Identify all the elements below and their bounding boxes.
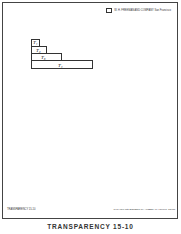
publisher-header: W. H. FREEMAN AND COMPANY San Francisco: [106, 8, 171, 13]
bar-label: T₄: [58, 63, 63, 68]
footer-book-credit: To be used with ELEMENTARY ALGEBRA by Ha…: [114, 208, 175, 210]
transparency-sheet: W. H. FREEMAN AND COMPANY San Francisco …: [2, 2, 178, 219]
footer-transparency-number: TRANSPARENCY 15-10: [7, 208, 35, 211]
publisher-text: W. H. FREEMAN AND COMPANY San Francisco: [114, 9, 171, 12]
caption: TRANSPARENCY 15-10: [0, 223, 181, 230]
bar-t4: T₄: [31, 60, 93, 69]
publisher-logo-icon: [106, 8, 112, 13]
bar-label: T₁: [33, 40, 38, 45]
